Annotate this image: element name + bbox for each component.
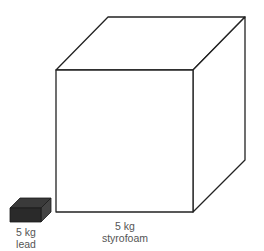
styrofoam-material: styrofoam xyxy=(85,232,165,244)
lead-cube xyxy=(10,198,51,222)
styrofoam-mass: 5 kg xyxy=(85,220,165,232)
styrofoam-cube-front-face xyxy=(56,70,193,212)
diagram-canvas: 5 kg lead 5 kg styrofoam xyxy=(0,0,264,251)
cubes-drawing xyxy=(0,0,264,251)
styrofoam-label: 5 kg styrofoam xyxy=(85,220,165,244)
lead-mass: 5 kg xyxy=(6,226,46,238)
lead-material: lead xyxy=(6,238,46,250)
lead-label: 5 kg lead xyxy=(6,226,46,250)
lead-cube-front-face xyxy=(10,208,41,222)
styrofoam-cube xyxy=(56,17,245,212)
